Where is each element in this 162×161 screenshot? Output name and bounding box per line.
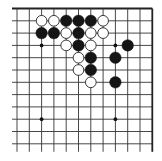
black-stone-icon bbox=[48, 27, 60, 39]
hoshi-point-icon bbox=[114, 117, 118, 121]
black-stone-icon bbox=[73, 40, 85, 52]
black-stone-icon bbox=[122, 40, 134, 52]
black-stone-icon bbox=[36, 27, 48, 39]
white-stone-icon bbox=[61, 28, 72, 39]
stones bbox=[36, 15, 134, 88]
white-stone-icon bbox=[98, 15, 109, 26]
black-stone-icon bbox=[110, 77, 122, 89]
white-stone-icon bbox=[36, 15, 47, 26]
white-stone-icon bbox=[85, 77, 96, 88]
white-stone-icon bbox=[85, 40, 96, 51]
black-stone-icon bbox=[73, 27, 85, 39]
black-stone-icon bbox=[60, 15, 72, 27]
black-stone-icon bbox=[85, 15, 97, 27]
white-stone-icon bbox=[49, 15, 60, 26]
white-stone-icon bbox=[73, 52, 84, 63]
white-stone-icon bbox=[61, 40, 72, 51]
black-stone-icon bbox=[85, 52, 97, 64]
white-stone-icon bbox=[73, 65, 84, 76]
black-stone-icon bbox=[110, 52, 122, 64]
black-stone-icon bbox=[73, 15, 85, 27]
hoshi-point-icon bbox=[40, 117, 44, 121]
black-stone-icon bbox=[85, 64, 97, 76]
white-stone-icon bbox=[85, 28, 96, 39]
go-board bbox=[0, 0, 162, 161]
hoshi-point-icon bbox=[40, 44, 44, 48]
hoshi-point-icon bbox=[114, 44, 118, 48]
white-stone-icon bbox=[98, 28, 109, 39]
